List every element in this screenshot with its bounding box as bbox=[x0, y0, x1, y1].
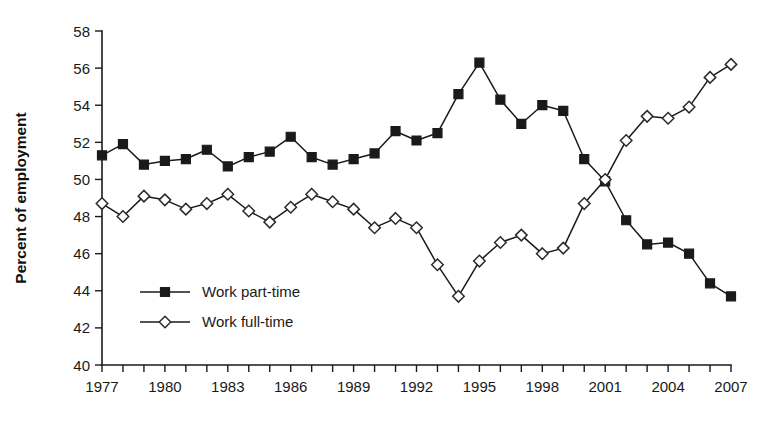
y-tick-label: 46 bbox=[73, 245, 90, 262]
data-point-marker bbox=[496, 95, 505, 104]
legend-marker bbox=[159, 316, 171, 328]
y-axis-ticks: 40424446485052545658 bbox=[73, 23, 102, 374]
data-point-marker bbox=[558, 242, 570, 254]
data-point-marker bbox=[517, 119, 526, 128]
data-point-marker bbox=[664, 238, 673, 247]
x-tick-label: 1989 bbox=[337, 378, 370, 395]
data-point-marker bbox=[391, 127, 400, 136]
data-point-marker bbox=[98, 151, 107, 160]
x-tick-label: 1986 bbox=[274, 378, 307, 395]
y-tick-label: 58 bbox=[73, 23, 90, 40]
data-point-marker bbox=[202, 145, 211, 154]
data-point-marker bbox=[453, 291, 465, 303]
x-tick-label: 1995 bbox=[463, 378, 496, 395]
data-point-marker bbox=[201, 198, 213, 210]
legend-marker bbox=[161, 288, 170, 297]
data-point-marker bbox=[580, 155, 589, 164]
data-point-marker bbox=[159, 194, 171, 206]
x-tick-label: 2004 bbox=[651, 378, 684, 395]
series-layer bbox=[96, 58, 737, 302]
data-point-marker bbox=[662, 112, 674, 124]
data-point-marker bbox=[286, 132, 295, 141]
data-point-marker bbox=[538, 101, 547, 110]
chart-legend: Work part-timeWork full-time bbox=[140, 283, 300, 330]
data-point-marker bbox=[643, 240, 652, 249]
legend-label: Work full-time bbox=[202, 313, 293, 330]
legend-item: Work part-time bbox=[140, 283, 300, 300]
y-tick-label: 42 bbox=[73, 319, 90, 336]
data-point-marker bbox=[160, 156, 169, 165]
data-point-marker bbox=[704, 72, 716, 84]
data-point-marker bbox=[96, 198, 108, 210]
data-point-marker bbox=[181, 155, 190, 164]
data-point-marker bbox=[412, 136, 421, 145]
chart-container: Percent of employment 404244464850525456… bbox=[0, 0, 775, 429]
data-point-marker bbox=[327, 196, 339, 208]
data-point-marker bbox=[727, 292, 736, 301]
y-tick-label: 40 bbox=[73, 357, 90, 374]
legend-item: Work full-time bbox=[140, 313, 293, 330]
y-tick-label: 54 bbox=[73, 97, 90, 114]
y-tick-label: 56 bbox=[73, 60, 90, 77]
x-axis-ticks: 1977198019831986198919921995199820012004… bbox=[85, 365, 747, 395]
data-point-marker bbox=[306, 189, 318, 201]
x-tick-label: 1980 bbox=[148, 378, 181, 395]
y-axis-title-label: Percent of employment bbox=[12, 112, 29, 283]
y-tick-label: 44 bbox=[73, 282, 90, 299]
data-point-marker bbox=[265, 147, 274, 156]
series-part-time bbox=[98, 58, 736, 301]
data-point-marker bbox=[307, 153, 316, 162]
data-point-marker bbox=[370, 149, 379, 158]
series-line bbox=[102, 63, 731, 297]
data-point-marker bbox=[683, 101, 695, 113]
data-point-marker bbox=[244, 153, 253, 162]
x-tick-label: 1998 bbox=[526, 378, 559, 395]
x-tick-label: 1983 bbox=[211, 378, 244, 395]
data-point-marker bbox=[454, 90, 463, 99]
data-point-marker bbox=[328, 160, 337, 169]
data-point-marker bbox=[725, 59, 737, 71]
y-axis-title: Percent of employment bbox=[12, 112, 29, 283]
data-point-marker bbox=[285, 202, 297, 214]
data-point-marker bbox=[349, 155, 358, 164]
x-tick-label: 1992 bbox=[400, 378, 433, 395]
y-tick-label: 50 bbox=[73, 171, 90, 188]
data-point-marker bbox=[685, 249, 694, 258]
data-point-marker bbox=[432, 259, 444, 271]
data-point-marker bbox=[223, 162, 232, 171]
data-point-marker bbox=[180, 203, 192, 215]
data-point-marker bbox=[622, 216, 631, 225]
legend-label: Work part-time bbox=[202, 283, 300, 300]
series-line bbox=[102, 64, 731, 296]
data-point-marker bbox=[118, 140, 127, 149]
data-point-marker bbox=[475, 58, 484, 67]
y-tick-label: 48 bbox=[73, 208, 90, 225]
data-point-marker bbox=[264, 216, 276, 228]
data-point-marker bbox=[411, 222, 423, 234]
series-full-time bbox=[96, 59, 737, 302]
x-tick-label: 1977 bbox=[85, 378, 118, 395]
data-point-marker bbox=[390, 213, 402, 225]
data-point-marker bbox=[706, 279, 715, 288]
x-tick-label: 2007 bbox=[714, 378, 747, 395]
data-point-marker bbox=[433, 129, 442, 138]
data-point-marker bbox=[559, 106, 568, 115]
data-point-marker bbox=[139, 160, 148, 169]
y-tick-label: 52 bbox=[73, 134, 90, 151]
x-tick-label: 2001 bbox=[589, 378, 622, 395]
line-chart: Percent of employment 404244464850525456… bbox=[0, 0, 775, 429]
